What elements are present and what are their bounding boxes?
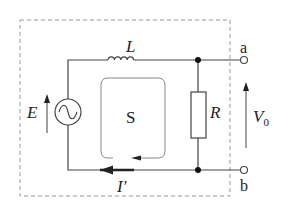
resistor-label: R bbox=[210, 104, 220, 121]
current-arrow-head bbox=[100, 166, 113, 175]
terminal-b bbox=[241, 167, 248, 174]
current-label: I′ bbox=[117, 178, 126, 195]
wire-left-bottom bbox=[68, 125, 244, 170]
inductor-icon bbox=[108, 57, 134, 60]
terminal-a-label: a bbox=[240, 40, 247, 56]
voltage-label: V0 bbox=[253, 108, 269, 128]
wire-left-top bbox=[68, 60, 108, 99]
loop-arrow-head bbox=[131, 156, 141, 161]
inductor-label: L bbox=[126, 38, 135, 55]
loop-label: S bbox=[126, 109, 135, 126]
source-label: E bbox=[27, 104, 37, 121]
voltage-label-sub: 0 bbox=[263, 116, 269, 128]
junction-dot-bottom bbox=[195, 167, 201, 173]
voltage-label-main: V bbox=[253, 107, 263, 126]
voltage-arrow-head bbox=[243, 82, 249, 91]
terminal-a bbox=[241, 57, 248, 64]
emf-arrow-head bbox=[44, 94, 50, 103]
junction-dot-top bbox=[195, 57, 201, 63]
resistor-icon bbox=[191, 92, 206, 138]
circuit-diagram bbox=[0, 0, 281, 215]
terminal-b-label: b bbox=[240, 178, 248, 194]
